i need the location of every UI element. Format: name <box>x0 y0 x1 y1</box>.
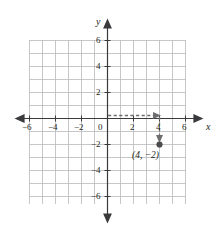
x-tick-label-4: 4 <box>156 123 161 132</box>
x-tick-label-neg4: −4 <box>48 123 58 132</box>
x-tick-label-neg2: −2 <box>74 123 84 132</box>
point-coordinate-label: (4, −2) <box>132 151 159 161</box>
y-tick-label-neg4: −4 <box>91 166 101 175</box>
x-tick-label-neg6: −6 <box>22 123 32 132</box>
x-tick-label-2: 2 <box>130 123 135 132</box>
y-axis <box>104 20 111 222</box>
y-tick-label-6: 6 <box>96 36 101 45</box>
y-tick-label-neg6: −6 <box>91 192 101 201</box>
plotted-point <box>156 141 162 147</box>
coordinate-plane-figure: −6 −4 −2 0 2 4 6 6 4 2 −2 −4 −6 y x (4, … <box>0 0 221 229</box>
y-tick-label-neg2: −2 <box>91 140 101 149</box>
x-tick-label-6: 6 <box>182 123 187 132</box>
y-tick-label-2: 2 <box>96 88 101 97</box>
y-axis-label: y <box>96 17 100 27</box>
coordinate-plot <box>0 0 221 229</box>
x-tick-label-zero: 0 <box>98 123 103 132</box>
x-axis-label: x <box>206 122 210 132</box>
y-tick-label-4: 4 <box>96 62 101 71</box>
